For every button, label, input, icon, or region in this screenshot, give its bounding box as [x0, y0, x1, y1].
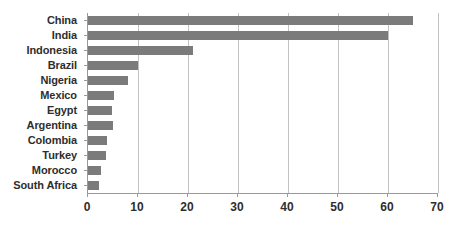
- value-tick-label: 70: [430, 199, 443, 215]
- value-tick-label: 50: [330, 199, 343, 215]
- category-label: Colombia: [0, 133, 82, 148]
- bar-chart: ChinaIndiaIndonesiaBrazilNigeriaMexicoEg…: [0, 0, 456, 240]
- bar: [88, 91, 114, 100]
- bar: [88, 16, 413, 25]
- value-tick: [137, 193, 138, 197]
- bar-series: [88, 13, 438, 193]
- bar: [88, 46, 193, 55]
- category-label: Nigeria: [0, 73, 82, 88]
- category-label: Mexico: [0, 88, 82, 103]
- bar-row: [88, 58, 438, 73]
- category-label: Argentina: [0, 118, 82, 133]
- bar: [88, 181, 99, 190]
- category-label: South Africa: [0, 178, 82, 193]
- bar: [88, 61, 138, 70]
- value-tick: [387, 193, 388, 197]
- gridline: [438, 13, 439, 193]
- value-tick: [187, 193, 188, 197]
- bar-row: [88, 103, 438, 118]
- bar-row: [88, 178, 438, 193]
- bar-row: [88, 133, 438, 148]
- category-label: Turkey: [0, 148, 82, 163]
- category-label: Egypt: [0, 103, 82, 118]
- category-axis: ChinaIndiaIndonesiaBrazilNigeriaMexicoEg…: [0, 13, 82, 193]
- value-tick-label: 0: [84, 199, 91, 215]
- category-label: China: [0, 13, 82, 28]
- value-tick-label: 10: [130, 199, 143, 215]
- bar-row: [88, 28, 438, 43]
- value-tick: [237, 193, 238, 197]
- bar-row: [88, 73, 438, 88]
- category-label: Brazil: [0, 58, 82, 73]
- value-tick-label: 20: [180, 199, 193, 215]
- bar-row: [88, 13, 438, 28]
- bar: [88, 31, 388, 40]
- bar: [88, 151, 106, 160]
- value-tick: [337, 193, 338, 197]
- bar: [88, 136, 107, 145]
- bar-row: [88, 163, 438, 178]
- bar-row: [88, 148, 438, 163]
- value-tick: [287, 193, 288, 197]
- value-tick: [87, 193, 88, 197]
- bar: [88, 76, 128, 85]
- bar-row: [88, 118, 438, 133]
- value-axis-ticks: [87, 193, 437, 198]
- value-tick-label: 30: [230, 199, 243, 215]
- value-axis-labels: 010203040506070: [87, 199, 437, 219]
- value-tick: [437, 193, 438, 197]
- value-tick-label: 60: [380, 199, 393, 215]
- plot-area: [87, 13, 438, 194]
- bar: [88, 166, 101, 175]
- bar: [88, 121, 113, 130]
- bar: [88, 106, 112, 115]
- value-tick-label: 40: [280, 199, 293, 215]
- bar-row: [88, 43, 438, 58]
- category-label: Indonesia: [0, 43, 82, 58]
- bar-row: [88, 88, 438, 103]
- category-label: Morocco: [0, 163, 82, 178]
- category-label: India: [0, 28, 82, 43]
